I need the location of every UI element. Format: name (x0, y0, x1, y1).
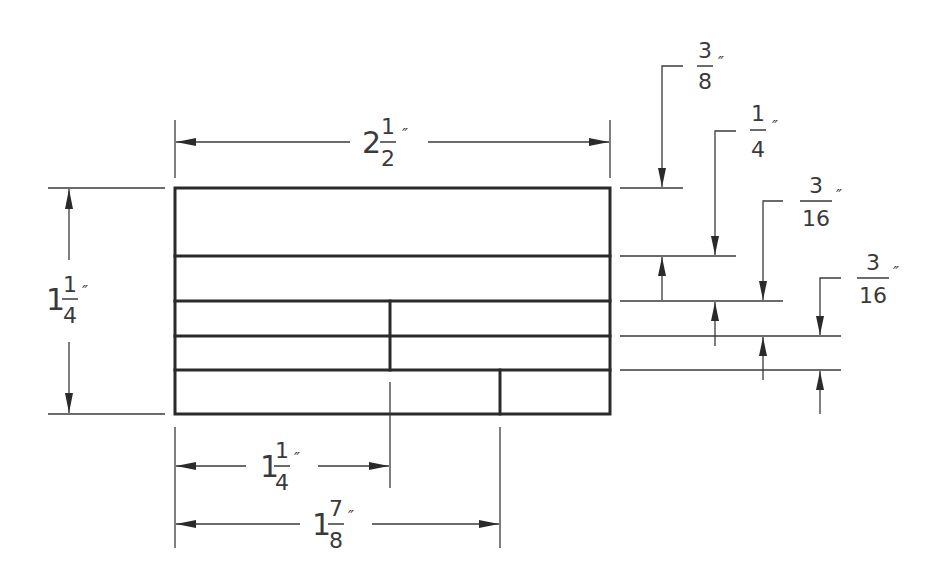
dim-whole: 2 (362, 125, 381, 160)
dimension-right-2: 1 4 ″ (658, 101, 778, 300)
inch-mark: ″ (893, 263, 899, 282)
dimension-bottom-2: 1 7 8 ″ (176, 427, 500, 553)
dimension-right-4: 3 16 ″ (759, 250, 899, 414)
dim-denominator: 4 (751, 137, 765, 162)
arrow-down-icon (658, 168, 666, 187)
arrow-right-icon (369, 462, 389, 470)
dim-denominator: 16 (802, 206, 830, 231)
arrow-up-icon (711, 302, 719, 321)
dim-denominator: 8 (329, 528, 343, 553)
dimension-right-1: 3 8 ″ (658, 38, 724, 187)
arrow-left-icon (176, 138, 196, 146)
dim-denominator: 16 (859, 283, 887, 308)
dim-denominator: 4 (63, 303, 77, 328)
arrow-down-icon (759, 281, 767, 300)
arrow-right-icon (589, 138, 609, 146)
inch-mark: ″ (836, 186, 842, 205)
title-block-outline (175, 188, 610, 414)
dimension-overall-width: 2 1 2 ″ (175, 114, 610, 178)
arrow-up-icon (658, 257, 666, 276)
leader-line (820, 278, 841, 335)
arrow-down-icon (711, 236, 719, 255)
dim-numerator: 1 (381, 114, 395, 139)
arrow-down-icon (816, 316, 824, 335)
arrow-left-icon (176, 520, 196, 528)
arrow-up-icon (759, 337, 767, 356)
inch-mark: ″ (348, 507, 354, 526)
inch-mark: ″ (718, 53, 724, 72)
dim-numerator: 3 (809, 173, 823, 198)
dim-denominator: 4 (275, 470, 289, 495)
dim-numerator: 1 (63, 272, 77, 297)
arrow-down-icon (65, 393, 73, 413)
dimension-overall-height: 1 1 4 ″ (46, 188, 165, 414)
inch-mark: ″ (294, 449, 300, 468)
inch-mark: ″ (772, 117, 778, 136)
dim-numerator: 7 (329, 496, 343, 521)
dim-numerator: 1 (751, 101, 765, 126)
title-block-drawing: 2 1 2 ″ 1 1 4 ″ 3 8 ″ (0, 0, 948, 586)
arrow-up-icon (816, 371, 824, 390)
dim-numerator: 1 (275, 438, 289, 463)
dim-numerator: 3 (698, 38, 712, 63)
arrow-right-icon (479, 520, 499, 528)
dim-denominator: 2 (381, 146, 395, 171)
dim-numerator: 3 (866, 250, 880, 275)
dimension-bottom-1: 1 1 4 ″ (175, 382, 390, 548)
arrow-up-icon (65, 189, 73, 209)
inch-mark: ″ (82, 282, 88, 301)
inch-mark: ″ (402, 125, 408, 144)
dim-denominator: 8 (698, 69, 712, 94)
arrow-left-icon (176, 462, 196, 470)
